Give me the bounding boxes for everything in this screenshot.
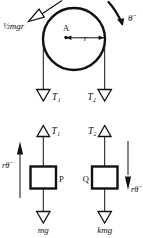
accel-left-label: rθ̈ xyxy=(2,160,13,170)
tension-left-arrowhead xyxy=(37,90,50,102)
weight-left-label: mg xyxy=(38,225,49,235)
block-q xyxy=(92,167,118,189)
block-q-label: Q xyxy=(83,174,89,184)
radius-arrowhead-right xyxy=(99,36,104,40)
angular-accel-label: θ̈ xyxy=(128,13,136,23)
block-p xyxy=(31,167,57,189)
accel-left-arrowhead xyxy=(17,142,23,155)
weight-left-arrowhead xyxy=(37,212,50,224)
pulley-panel: A r ½mgr θ̈ T₁ T₂ xyxy=(3,1,136,103)
figure-canvas: A r ½mgr θ̈ T₁ T₂ xyxy=(0,0,143,238)
physics-figure: A r ½mgr θ̈ T₁ T₂ xyxy=(0,0,143,238)
blocks-panel: T₁ P mg rθ̈ T₂ Q kmg xyxy=(2,126,142,236)
accel-right-label: rθ̈ xyxy=(131,184,142,194)
torque-label: ½mgr xyxy=(3,21,25,31)
block-p-label: P xyxy=(59,174,64,184)
block-right-tension-arrowhead xyxy=(98,126,111,137)
weight-right-arrowhead xyxy=(98,212,111,224)
block-left-tension-label: T₁ xyxy=(52,126,61,136)
centre-label: A xyxy=(63,23,70,33)
tension-right-arrowhead xyxy=(98,90,111,102)
angular-accel-arrowhead xyxy=(117,18,124,26)
torque-arrowhead xyxy=(29,9,45,21)
pulley-disc xyxy=(43,8,105,70)
tension-right-label: T₂ xyxy=(87,92,96,102)
block-left-tension-arrowhead xyxy=(37,126,50,137)
block-right-tension-label: T₂ xyxy=(88,126,97,136)
weight-right-label: kmg xyxy=(97,225,112,235)
tension-left-label: T₁ xyxy=(52,92,61,102)
